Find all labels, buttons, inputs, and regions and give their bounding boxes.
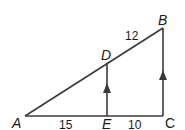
segment-length-ec: 10 [128,118,142,130]
point-label-a: A [11,115,21,130]
parallel-arrow-icon [103,83,111,93]
point-label-c: C [165,115,175,130]
parallel-arrow-icon [159,70,167,80]
triangle-diagram: A E C B D 15 10 12 [0,0,185,130]
segment-ab [25,28,163,116]
point-label-d: D [101,47,111,63]
segment-length-db: 12 [125,29,139,43]
point-label-e: E [102,116,112,130]
point-label-b: B [158,12,167,28]
segment-length-ae: 15 [59,118,73,130]
